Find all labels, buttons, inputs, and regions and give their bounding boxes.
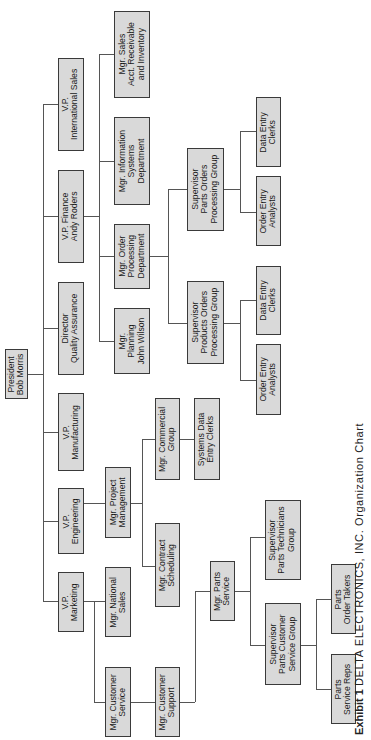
- node-mgr-national-sales: Mgr. National Sales: [105, 567, 131, 637]
- connector: [195, 591, 196, 702]
- node-label: V.P. Marketing: [62, 583, 81, 621]
- node-label: Mgr. Information Systems Department: [118, 130, 146, 192]
- node-mgr-customer-service: Mgr. Customer Service: [105, 667, 131, 737]
- connector: [168, 189, 187, 190]
- node-label: Parts Service Reps: [334, 663, 353, 714]
- connector: [235, 591, 250, 592]
- node-vp-marketing: V.P. Marketing: [58, 572, 84, 632]
- connector: [240, 131, 256, 132]
- node-mgr-commercial-group: Mgr. Commercial Group: [155, 398, 180, 480]
- connector: [43, 432, 58, 433]
- node-label: V.P. International Sales: [62, 69, 81, 140]
- connector: [43, 521, 58, 522]
- node-parts-data-entry-clerks: Data Entry Clerks: [256, 97, 281, 167]
- node-label: V.P. Engineering: [62, 498, 81, 544]
- node-label: Mgr. Customer Support: [158, 674, 177, 730]
- node-products-data-entry-clerks: Data Entry Clerks: [256, 266, 281, 335]
- exhibit-title: DELTA ELECTRONICS, INC. Organization Cha…: [353, 423, 365, 686]
- connector: [43, 104, 44, 601]
- node-label: Supervisor Parts Orders Processing Group: [191, 155, 219, 224]
- node-label: Mgr. Order Processing Department: [118, 234, 146, 279]
- node-mgr-project-management: Mgr. Project Management: [105, 467, 131, 538]
- node-mgr-order-processing: Mgr. Order Processing Department: [114, 224, 150, 289]
- connector: [195, 591, 210, 592]
- node-sup-parts-customer-service: Supervisor Parts Customer Service Group: [265, 603, 301, 685]
- node-label: Director Quality Assurance: [62, 294, 81, 363]
- node-sup-parts-orders: Supervisor Parts Orders Processing Group: [187, 148, 224, 231]
- connector: [316, 599, 331, 600]
- connector: [131, 702, 155, 703]
- connector: [43, 216, 58, 217]
- node-vp-international-sales: V.P. International Sales: [58, 58, 84, 151]
- node-label: Mgr. National Sales: [109, 577, 128, 628]
- node-sup-products-orders: Supervisor Products Orders Processing Gr…: [187, 281, 224, 364]
- node-mgr-parts-service: Mgr. Parts Service: [210, 561, 235, 621]
- node-vp-manufacturing: V.P. Manufacturing: [58, 393, 84, 471]
- node-label: Parts Order Takers: [334, 574, 353, 624]
- connector: [142, 439, 143, 566]
- connector: [99, 341, 114, 342]
- connector: [84, 216, 99, 217]
- connector: [316, 689, 331, 690]
- node-label: V.P. Finance Andy Roders: [62, 192, 81, 242]
- connector: [223, 189, 240, 190]
- node-president: President Bob Morris: [5, 349, 28, 399]
- node-mgr-contract-scheduling: Mgr. Contract Scheduling: [155, 523, 180, 607]
- connector: [250, 537, 265, 538]
- connector: [43, 601, 58, 602]
- connector: [316, 599, 317, 689]
- node-label: Supervisor Parts Customer Service Group: [269, 614, 297, 674]
- exhibit-label: Exhibit 1: [353, 689, 365, 735]
- node-vp-finance: V.P. Finance Andy Roders: [58, 170, 84, 263]
- connector: [240, 380, 256, 381]
- connector: [27, 374, 43, 375]
- connector: [43, 104, 58, 105]
- connector: [250, 537, 251, 645]
- node-mgr-info-systems: Mgr. Information Systems Department: [114, 117, 150, 205]
- node-label: Systems Data Entry Clerks: [198, 412, 217, 466]
- connector: [240, 300, 241, 380]
- node-label: Supervisor Products Orders Processing Gr…: [191, 288, 219, 357]
- connector: [180, 702, 195, 703]
- node-label: Mgr. Sales Acct. Receivable and Inventor…: [118, 22, 146, 86]
- node-systems-data-entry-clerks: Systems Data Entry Clerks: [194, 398, 220, 480]
- node-label: Data Entry Clerks: [259, 280, 278, 321]
- node-mgr-customer-support: Mgr. Customer Support: [155, 667, 180, 737]
- connector: [142, 566, 155, 567]
- node-label: Order Entry Analysts: [259, 189, 278, 233]
- node-products-order-entry-analysts: Order Entry Analysts: [256, 344, 281, 415]
- connector: [99, 54, 100, 341]
- node-label: Mgr. Customer Service: [109, 674, 128, 730]
- node-vp-engineering: V.P. Engineering: [58, 488, 84, 554]
- node-label: President Bob Morris: [7, 353, 26, 395]
- node-label: Order Entry Analysts: [259, 357, 278, 401]
- node-label: Mgr. Contract Scheduling: [158, 539, 177, 591]
- connector: [94, 601, 95, 702]
- connector: [43, 328, 58, 329]
- node-label: V.P. Manufacturing: [62, 405, 81, 459]
- connector: [99, 256, 114, 257]
- connector: [180, 439, 194, 440]
- node-mgr-sales-acct: Mgr. Sales Acct. Receivable and Inventor…: [114, 11, 150, 98]
- connector: [240, 131, 241, 212]
- node-label: Mgr. Project Management: [109, 477, 128, 527]
- node-director-qa: Director Quality Assurance: [58, 282, 84, 375]
- node-label: Mgr. Commercial Group: [158, 407, 177, 472]
- connector: [168, 323, 187, 324]
- node-sup-parts-technicians: Supervisor Parts Technicians Group: [265, 500, 301, 580]
- connector: [168, 189, 169, 323]
- node-mgr-planning: Mgr. Planning John Wilson: [114, 308, 150, 374]
- node-label: Data Entry Clerks: [259, 112, 278, 153]
- node-parts-order-entry-analysts: Order Entry Analysts: [256, 176, 281, 246]
- node-label: Supervisor Parts Technicians Group: [269, 506, 297, 573]
- node-label: Mgr. Parts Service: [213, 571, 232, 610]
- connector: [240, 300, 256, 301]
- connector: [99, 161, 114, 162]
- connector: [250, 645, 265, 646]
- connector: [142, 439, 155, 440]
- connector: [99, 54, 114, 55]
- connector: [149, 256, 168, 257]
- node-label: Mgr. Planning John Wilson: [118, 318, 146, 365]
- connector: [240, 212, 256, 213]
- connector: [300, 645, 316, 646]
